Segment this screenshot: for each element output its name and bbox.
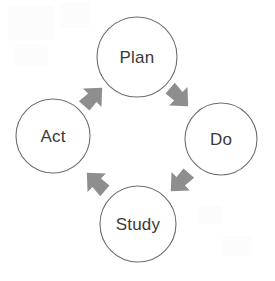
diagram-svg-canvas: Plan Do Study Act	[0, 0, 275, 281]
cycle-node-act[interactable]: Act	[16, 99, 90, 173]
plan-label: Plan	[120, 48, 155, 67]
act-label: Act	[40, 127, 65, 146]
cycle-node-study[interactable]: Study	[100, 186, 176, 262]
cycle-node-do[interactable]: Do	[185, 103, 257, 175]
arrow-study-to-act	[78, 164, 115, 201]
pdsa-cycle-diagram: Plan Do Study Act	[0, 0, 275, 281]
arrow-act-to-plan	[75, 79, 112, 116]
arrow-do-to-study	[162, 164, 199, 201]
do-label: Do	[210, 130, 232, 149]
study-label: Study	[116, 215, 161, 234]
cycle-node-plan[interactable]: Plan	[97, 17, 177, 97]
